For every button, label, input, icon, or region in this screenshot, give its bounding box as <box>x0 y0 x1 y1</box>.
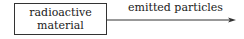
arrow-label: emitted particles <box>128 1 223 14</box>
